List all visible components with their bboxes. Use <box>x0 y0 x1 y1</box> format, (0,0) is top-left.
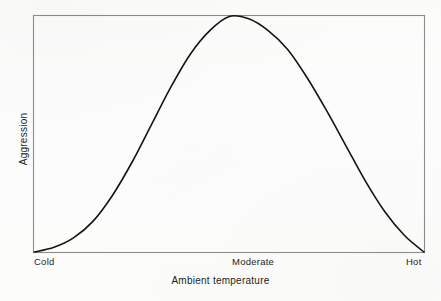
plot-frame <box>34 16 425 253</box>
y-axis-title: Aggression <box>19 94 29 184</box>
x-tick-label-hot: Hot <box>406 257 422 267</box>
figure-container: Cold Moderate Hot Ambient temperature Ag… <box>0 0 441 301</box>
aggression-curve <box>35 16 425 252</box>
x-tick-label-moderate: Moderate <box>232 257 274 267</box>
x-tick-label-cold: Cold <box>34 257 55 267</box>
chart-plot <box>0 0 441 301</box>
x-axis-title: Ambient temperature <box>0 276 441 286</box>
